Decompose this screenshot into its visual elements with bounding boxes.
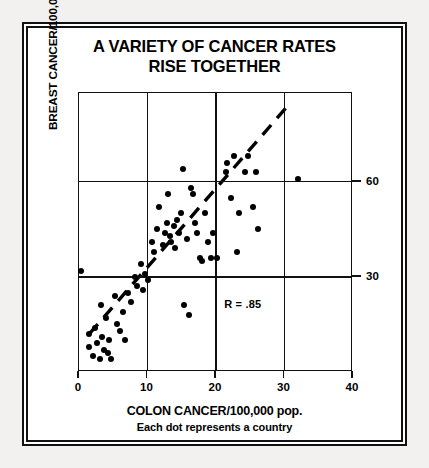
data-point [190, 191, 196, 197]
data-point [171, 223, 177, 229]
data-point [236, 210, 242, 216]
x-axis-tick-label: 20 [209, 381, 222, 393]
x-axis-tick [146, 371, 148, 378]
data-point [223, 169, 229, 175]
data-point [149, 239, 155, 245]
data-point [194, 230, 200, 236]
data-point [97, 356, 103, 362]
x-axis-tick-label: 10 [140, 381, 153, 393]
x-axis-tick [351, 371, 353, 378]
data-point [78, 268, 84, 274]
data-point [205, 239, 211, 245]
data-point [108, 356, 114, 362]
y-axis-tick [352, 275, 361, 277]
data-point [128, 299, 134, 305]
y-axis-tick [352, 180, 361, 182]
data-point [188, 185, 194, 191]
data-point [255, 226, 261, 232]
chart-caption: Each dot represents a country [34, 421, 395, 433]
data-point [210, 230, 216, 236]
data-point [164, 220, 170, 226]
data-point [98, 302, 104, 308]
data-point [142, 271, 148, 277]
data-point [122, 337, 128, 343]
data-point [120, 309, 126, 315]
data-point [242, 169, 248, 175]
data-point [117, 328, 123, 334]
x-axis-tick-label: 0 [75, 381, 81, 393]
data-point [138, 261, 144, 267]
data-point [168, 239, 174, 245]
data-point [92, 325, 98, 331]
data-point [160, 242, 166, 248]
data-point [140, 287, 146, 293]
data-point [184, 236, 190, 242]
y-axis-label: BREAST CANCER/100,000 pop. [46, 0, 60, 130]
x-axis-tick-label: 40 [346, 381, 359, 393]
data-point [86, 344, 92, 350]
data-point [105, 350, 111, 356]
data-point [174, 217, 180, 223]
data-point [145, 277, 151, 283]
chart-page: A VARIETY OF CANCER RATES RISE TOGETHER … [0, 0, 429, 468]
data-point [250, 204, 256, 210]
data-point [103, 315, 109, 321]
data-point [86, 331, 92, 337]
data-point [214, 255, 220, 261]
data-point [112, 293, 118, 299]
data-point [186, 312, 192, 318]
data-point [245, 153, 251, 159]
plot-area: R = .85 [78, 92, 352, 371]
correlation-annotation: R = .85 [224, 298, 261, 310]
data-point [202, 210, 208, 216]
chart-title: A VARIETY OF CANCER RATES RISE TOGETHER [34, 36, 395, 76]
y-axis-tick-label: 60 [366, 175, 379, 187]
data-point [132, 274, 138, 280]
data-point [114, 321, 120, 327]
data-point [172, 245, 178, 251]
data-point [295, 176, 301, 182]
y-axis-tick-label: 30 [366, 270, 379, 282]
data-point [99, 334, 105, 340]
gridline-vertical [284, 93, 285, 370]
chart-title-line-1: A VARIETY OF CANCER RATES [34, 36, 395, 56]
data-point [231, 153, 237, 159]
data-point [167, 233, 173, 239]
data-point [208, 255, 214, 261]
data-point [228, 195, 234, 201]
x-axis-tick [214, 371, 216, 378]
gridline-horizontal [79, 276, 351, 277]
data-point [156, 204, 162, 210]
data-point [181, 302, 187, 308]
x-axis-tick [77, 371, 79, 378]
chart-title-line-2: RISE TOGETHER [34, 56, 395, 76]
data-point [253, 169, 259, 175]
data-point [90, 353, 96, 359]
data-point [199, 258, 205, 264]
data-point [106, 337, 112, 343]
data-point [178, 210, 184, 216]
gridline-vertical [147, 93, 148, 370]
data-point [224, 160, 230, 166]
data-point [94, 340, 100, 346]
x-axis-tick [283, 371, 285, 378]
data-point [192, 220, 198, 226]
data-point [151, 249, 157, 255]
data-point [154, 226, 160, 232]
data-point [125, 290, 131, 296]
data-point [176, 230, 182, 236]
data-point [234, 249, 240, 255]
x-axis-label: COLON CANCER/100,000 pop. [34, 404, 395, 418]
data-point [180, 166, 186, 172]
gridline-horizontal [79, 181, 351, 182]
x-axis-tick-label: 30 [277, 381, 290, 393]
data-point [165, 191, 171, 197]
